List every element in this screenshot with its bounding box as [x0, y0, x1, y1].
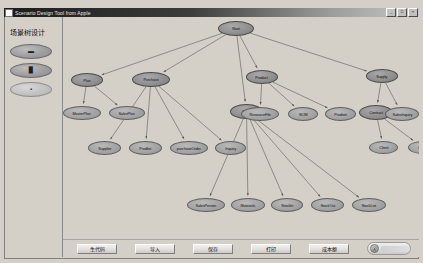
tool-link-button[interactable]: ▪ [10, 82, 52, 97]
title-bar[interactable]: Scenario Design Tool from Apple _ □ × [4, 8, 419, 17]
bottom-toolbar: 生代码导入保存打印成本额 Ⓐ [63, 239, 419, 257]
cost-button[interactable]: 成本额 [309, 244, 349, 254]
tree-node-label: SalesInquiry [392, 112, 412, 117]
tree-node-stocklist[interactable]: StockList [352, 198, 386, 212]
tree-edge [250, 33, 367, 71]
status-pill-text [381, 246, 410, 252]
tree-edge [102, 33, 222, 75]
tree-edge [378, 120, 382, 139]
tree-node-stockin[interactable]: StockIn [271, 198, 303, 212]
tree-edge [385, 119, 413, 140]
tree-edge [155, 87, 184, 139]
tree-node-label: Contract [369, 110, 383, 115]
tree-node-purchaseorder[interactable]: purchaseOrder [170, 141, 208, 155]
tool-link-icon: ▪ [30, 86, 32, 93]
window-frame-bottom [0, 259, 423, 263]
print-button[interactable]: 打印 [251, 244, 291, 254]
tree-node-label: Product [256, 75, 268, 80]
tree-node-masterplan[interactable]: MasterPlan [63, 106, 101, 120]
app-icon [5, 9, 13, 17]
tree-node-label: Root [232, 26, 240, 31]
tree-node-label: Client [379, 145, 388, 150]
tree-node-label: Supplier [98, 146, 111, 151]
tree-edge [250, 119, 283, 196]
generate-code-button[interactable]: 生代码 [77, 244, 117, 254]
tree-node-label: StockList [362, 203, 377, 208]
tree-edge [83, 87, 86, 104]
tree-node-label: Purchase [143, 77, 158, 82]
tree-canvas[interactable]: RootPlanPurchaseProductSupplyMasterPlanS… [63, 17, 419, 239]
tree-node-prodset[interactable]: Prodset [325, 107, 356, 121]
tree-node-purchase[interactable]: Purchase [132, 72, 170, 87]
tree-node-inquiry[interactable]: Inquiry [215, 141, 246, 155]
tree-node-label: Supply [376, 74, 387, 79]
tree-edge [95, 86, 118, 105]
tool-select-icon: ▬ [28, 48, 34, 55]
sidebar-panel: 场景树设计 ▬ ▉ ▪ [5, 17, 63, 257]
tree-edge [240, 36, 257, 68]
tree-edge [255, 118, 359, 197]
tree-edge [164, 35, 226, 72]
minimize-button[interactable]: _ [386, 8, 396, 17]
tree-edge [261, 84, 262, 105]
tree-node-salesinquiry[interactable]: SalesInquiry [385, 107, 419, 121]
window-title: Scenario Design Tool from Apple [15, 10, 385, 16]
tool-node-button[interactable]: ▉ [10, 63, 52, 78]
tree-edge [269, 83, 294, 106]
tree-node-supply[interactable]: Supply [366, 69, 398, 83]
tree-node-label: Prodlist [140, 146, 152, 151]
tree-edge [159, 86, 222, 140]
sidebar-title: 场景树设计 [10, 28, 45, 37]
tree-node-materials[interactable]: Materials [231, 198, 265, 212]
tree-edge [210, 119, 243, 196]
close-button[interactable]: × [408, 8, 418, 17]
tree-edge [273, 82, 328, 108]
maximize-button[interactable]: □ [397, 8, 407, 17]
tree-node-label: SalesPlan [119, 111, 135, 116]
tree-node-label: StockOut [320, 203, 335, 208]
tree-node-label: Plan [83, 78, 90, 83]
tree-node-label: Prodset [334, 112, 346, 117]
tree-edge [247, 119, 248, 196]
tree-node-client[interactable]: Client [369, 141, 398, 154]
tree-node-label: SalesPerson [196, 203, 217, 208]
tree-edge [146, 87, 150, 139]
tree-edge [237, 36, 245, 102]
tree-node-plan[interactable]: Plan [71, 73, 103, 87]
tree-node-label: MasterPlan [73, 111, 91, 116]
status-pill-icon: Ⓐ [370, 244, 379, 253]
application-window: Scenario Design Tool from Apple _ □ × 场景… [0, 0, 423, 263]
tree-node-supplier[interactable]: Supplier [88, 141, 121, 155]
tree-node-label: Order [418, 145, 419, 150]
tree-node-salesplan[interactable]: SalesPlan [109, 106, 145, 120]
import-button[interactable]: 导入 [135, 244, 175, 254]
tree-node-root[interactable]: Root [218, 21, 254, 36]
save-button[interactable]: 保存 [193, 244, 233, 254]
tree-node-prodlist[interactable]: Prodlist [129, 141, 162, 155]
tree-node-product[interactable]: Product [246, 70, 278, 84]
tree-edge [253, 118, 321, 196]
tool-select-button[interactable]: ▬ [10, 44, 52, 59]
tree-edge [386, 83, 398, 105]
tree-node-label: Inquiry [225, 146, 236, 151]
tree-node-label: ResourceFile [249, 112, 270, 117]
tree-node-label: BOM [299, 112, 307, 117]
window-frame-right [419, 8, 423, 259]
tree-edge [378, 83, 381, 103]
status-pill[interactable]: Ⓐ [367, 242, 411, 255]
tree-node-label: StockIn [281, 203, 293, 208]
tree-node-stockout[interactable]: StockOut [311, 198, 344, 212]
tree-node-label: purchaseOrder [177, 146, 201, 151]
tree-node-label: Materials [241, 203, 256, 208]
tree-node-bom[interactable]: BOM [288, 107, 318, 121]
tree-node-resourcefile[interactable]: ResourceFile [241, 107, 279, 121]
window-body: 场景树设计 ▬ ▉ ▪ RootPlanPurchaseProductSuppl… [4, 17, 419, 259]
tree-node-salesperson[interactable]: SalesPerson [187, 198, 225, 212]
tool-node-icon: ▉ [29, 67, 34, 74]
